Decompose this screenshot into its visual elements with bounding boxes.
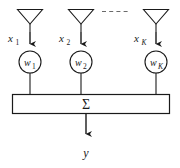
antenna-icon [69, 10, 94, 25]
antenna-icon [18, 10, 43, 25]
weight-label-k-sub: K [157, 62, 164, 71]
input-label-k: x [133, 32, 139, 44]
channel-2-group [69, 10, 94, 95]
antenna-icon [144, 10, 169, 25]
input-label-1: x [7, 32, 13, 44]
input-label-k-sub: K [141, 38, 148, 47]
summation-box [13, 95, 170, 114]
weight-label-2: w [75, 57, 82, 68]
channel-k-group [144, 10, 169, 95]
array-diagram: x 1 x 2 x K w 1 w 2 w K Σ y [0, 0, 180, 168]
input-label-1-sub: 1 [16, 38, 20, 47]
weight-label-2-sub: 2 [83, 62, 87, 71]
output-label: y [82, 146, 89, 160]
input-label-2: x [58, 32, 64, 44]
weight-label-1: w [24, 57, 31, 68]
summation-symbol: Σ [82, 97, 90, 112]
channel-1-group [18, 10, 43, 95]
weight-label-k: w [150, 57, 157, 68]
input-label-2-sub: 2 [67, 38, 71, 47]
diagram-canvas: x 1 x 2 x K w 1 w 2 w K Σ y [0, 0, 180, 168]
weight-label-1-sub: 1 [32, 62, 36, 71]
